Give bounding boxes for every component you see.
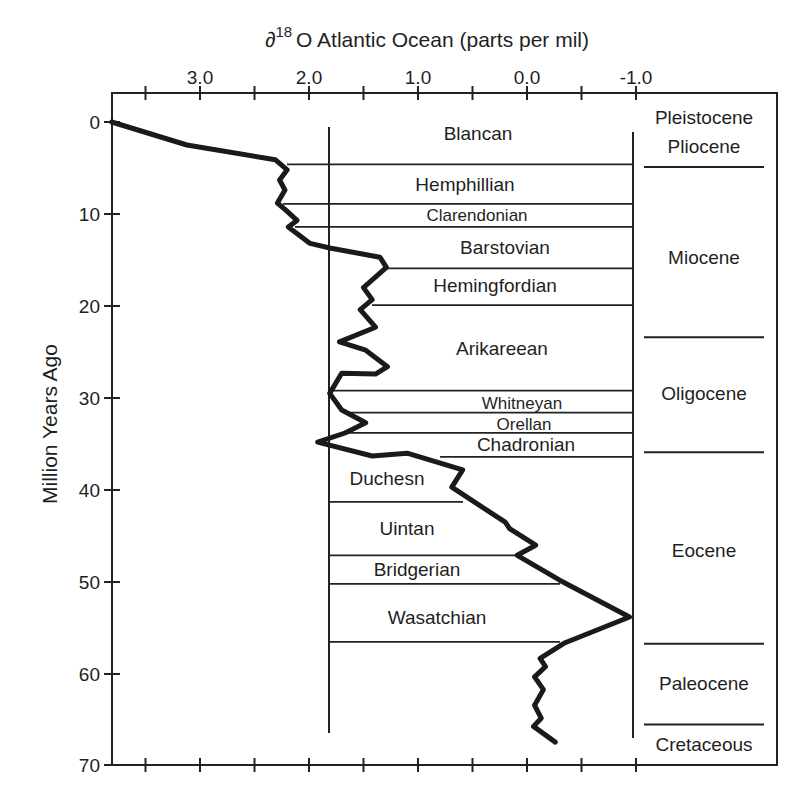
x-tick-label: 2.0 bbox=[296, 67, 322, 88]
stage-label: Uintan bbox=[380, 518, 435, 539]
y-axis-ticks: 010203040506070 bbox=[79, 112, 120, 776]
stage-label: Hemphillian bbox=[415, 174, 514, 195]
land-mammal-ages: BlancanHemphillianClarendonianBarstovian… bbox=[283, 123, 633, 738]
y-tick-label: 10 bbox=[79, 204, 100, 225]
epoch-label: Cretaceous bbox=[655, 734, 752, 755]
isotope-curve bbox=[112, 122, 630, 742]
stage-label: Barstovian bbox=[460, 237, 550, 258]
x-tick-label: 3.0 bbox=[187, 67, 213, 88]
stage-label: Clarendonian bbox=[426, 206, 527, 225]
y-tick-label: 40 bbox=[79, 480, 100, 501]
oxygen-isotope-chart: ∂18O Atlantic Ocean (parts per mil) Mill… bbox=[0, 0, 808, 812]
epoch-label: Paleocene bbox=[659, 673, 749, 694]
geologic-epochs: PleistocenePlioceneMioceneOligoceneEocen… bbox=[644, 107, 764, 755]
epoch-label: Oligocene bbox=[661, 383, 747, 404]
stage-label: Hemingfordian bbox=[433, 275, 557, 296]
epoch-label: Pliocene bbox=[668, 136, 741, 157]
y-tick-label: 0 bbox=[89, 112, 100, 133]
stage-label: Bridgerian bbox=[374, 559, 461, 580]
stage-label: Duchesn bbox=[350, 468, 425, 489]
epoch-label: Eocene bbox=[672, 540, 736, 561]
y-tick-label: 60 bbox=[79, 664, 100, 685]
stage-label: Orellan bbox=[497, 415, 552, 434]
x-tick-label: -1.0 bbox=[620, 67, 653, 88]
x-axis-title-text: O Atlantic Ocean (parts per mil) bbox=[296, 28, 589, 51]
x-axis-title: ∂18O Atlantic Ocean (parts per mil) bbox=[265, 23, 589, 51]
x-tick-label: 1.0 bbox=[405, 67, 431, 88]
y-tick-label: 70 bbox=[79, 755, 100, 776]
stage-label: Blancan bbox=[444, 123, 513, 144]
x-axis-ticks: 3.02.01.00.0-1.0 bbox=[146, 67, 653, 772]
epoch-label: Miocene bbox=[668, 247, 740, 268]
y-tick-label: 20 bbox=[79, 296, 100, 317]
stage-label: Chadronian bbox=[477, 434, 575, 455]
x-axis-title-superscript: 18 bbox=[275, 23, 292, 40]
y-tick-label: 30 bbox=[79, 388, 100, 409]
y-tick-label: 50 bbox=[79, 572, 100, 593]
x-axis-title-symbol: ∂ bbox=[265, 28, 275, 51]
y-axis-title: Million Years Ago bbox=[38, 344, 61, 504]
stage-label: Whitneyan bbox=[482, 394, 562, 413]
x-tick-label: 0.0 bbox=[514, 67, 540, 88]
stage-label: Arikareean bbox=[456, 338, 548, 359]
epoch-label: Pleistocene bbox=[655, 107, 753, 128]
stage-label: Wasatchian bbox=[388, 607, 487, 628]
